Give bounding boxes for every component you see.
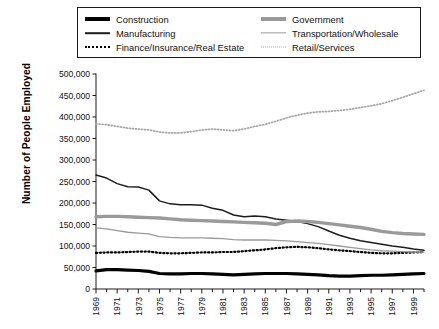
y-tick-label: 150,000 — [59, 220, 90, 230]
series-line — [96, 216, 424, 234]
x-tick-label: 1999 — [409, 297, 419, 316]
series-line — [96, 175, 424, 250]
y-tick-label: 0 — [85, 284, 90, 294]
series-line — [96, 90, 424, 133]
x-tick-label: 1983 — [239, 297, 249, 316]
x-tick-label: 1987 — [282, 297, 292, 316]
employment-line-chart: Construction Manufacturing Finance/Insur… — [0, 0, 439, 329]
y-tick-label: 500,000 — [59, 69, 90, 79]
x-tick-label: 1969 — [91, 297, 101, 316]
series-line — [96, 270, 424, 276]
x-tick-label: 1989 — [303, 297, 313, 316]
x-axis-ticks: 1969197119731975197719791981198319851987… — [91, 289, 424, 316]
x-tick-label: 1985 — [260, 297, 270, 316]
y-tick-label: 400,000 — [59, 112, 90, 122]
x-tick-label: 1971 — [112, 297, 122, 316]
x-tick-label: 1995 — [366, 297, 376, 316]
y-axis-ticks: 050,000100,000150,000200,000250,000300,0… — [59, 69, 96, 294]
y-tick-label: 350,000 — [59, 134, 90, 144]
x-tick-label: 1981 — [218, 297, 228, 316]
y-tick-label: 200,000 — [59, 198, 90, 208]
x-tick-label: 1991 — [324, 297, 334, 316]
x-tick-label: 1975 — [155, 297, 165, 316]
x-tick-label: 1973 — [134, 297, 144, 316]
y-tick-label: 50,000 — [64, 263, 91, 273]
x-tick-label: 1997 — [387, 297, 397, 316]
plot-area: 050,000100,000150,000200,000250,000300,0… — [0, 0, 439, 329]
y-tick-label: 450,000 — [59, 91, 90, 101]
y-tick-label: 300,000 — [59, 155, 90, 165]
data-series-group — [96, 90, 424, 276]
y-tick-label: 100,000 — [59, 241, 90, 251]
x-tick-label: 1977 — [176, 297, 186, 316]
x-tick-label: 1993 — [345, 297, 355, 316]
y-tick-label: 250,000 — [59, 177, 90, 187]
x-tick-label: 1979 — [197, 297, 207, 316]
